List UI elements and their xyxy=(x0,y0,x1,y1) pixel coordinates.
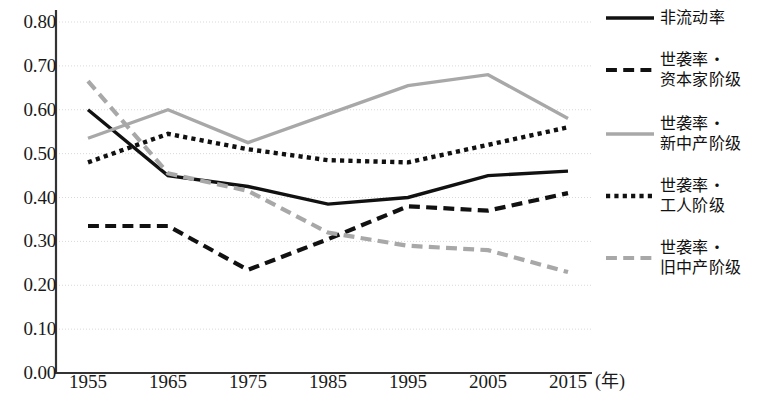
legend-swatch-icon xyxy=(604,187,656,205)
legend-item-5[interactable]: 世袭率・ 旧中产阶级 xyxy=(604,238,761,278)
x-axis-tick-label: 1955 xyxy=(53,372,123,391)
legend-swatch-icon xyxy=(604,125,656,143)
legend-swatch-icon xyxy=(604,61,656,79)
legend-item-2[interactable]: 世袭率・ 资本家阶级 xyxy=(604,50,761,90)
legend-item-label: 世袭率・ 新中产阶级 xyxy=(660,114,741,154)
legend-swatch-icon xyxy=(604,249,656,267)
legend-item-label: 世袭率・ 资本家阶级 xyxy=(660,50,741,90)
legend-item-4[interactable]: 世袭率・ 工人阶级 xyxy=(604,176,761,216)
x-axis-tick-label: 1995 xyxy=(373,372,443,391)
chart-legend: 非流动率世袭率・ 资本家阶级世袭率・ 新中产阶级世袭率・ 工人阶级世袭率・ 旧中… xyxy=(604,4,761,294)
x-axis-unit-label: (年) xyxy=(595,372,625,391)
x-axis-tick-labels: 1955196519751985199520052015 xyxy=(0,0,620,401)
x-axis-tick-label: 2015 xyxy=(533,372,603,391)
legend-swatch-icon xyxy=(604,9,656,27)
x-axis-tick-label: 1985 xyxy=(293,372,363,391)
chart-figure: 0.000.100.200.300.400.500.600.700.80 195… xyxy=(0,0,761,401)
x-axis-tick-label: 2005 xyxy=(453,372,523,391)
x-axis-tick-label: 1975 xyxy=(213,372,283,391)
legend-item-1[interactable]: 非流动率 xyxy=(604,8,761,28)
legend-item-3[interactable]: 世袭率・ 新中产阶级 xyxy=(604,114,761,154)
legend-item-label: 世袭率・ 旧中产阶级 xyxy=(660,238,741,278)
legend-item-label: 非流动率 xyxy=(660,8,725,28)
x-axis-tick-label: 1965 xyxy=(133,372,203,391)
legend-item-label: 世袭率・ 工人阶级 xyxy=(660,176,725,216)
